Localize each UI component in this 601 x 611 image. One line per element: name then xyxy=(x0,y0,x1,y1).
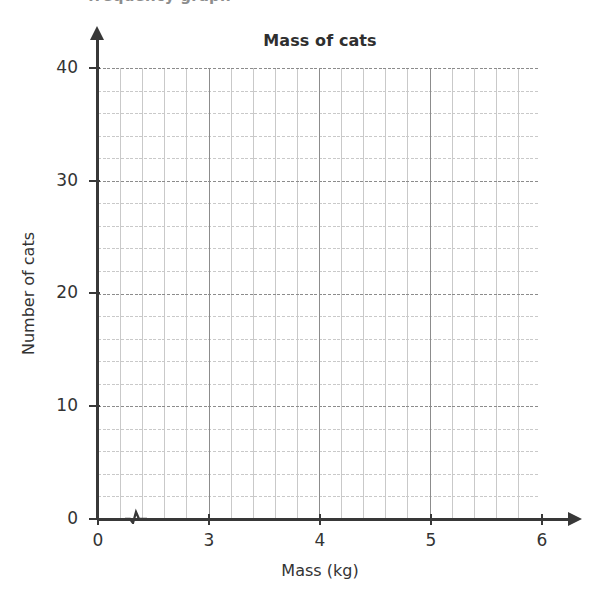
y-axis-tick xyxy=(89,180,100,182)
y-axis-tick-label: 30 xyxy=(18,170,78,190)
x-axis-tick-label: 0 xyxy=(68,530,128,550)
x-axis-tick xyxy=(208,514,210,525)
x-axis-tick xyxy=(541,514,543,525)
y-axis-line xyxy=(96,36,99,520)
x-axis-arrow-icon xyxy=(568,512,582,526)
x-axis-tick-label: 3 xyxy=(179,530,239,550)
axis-break-icon xyxy=(124,500,148,524)
x-axis-title: Mass (kg) xyxy=(190,561,450,580)
y-axis-arrow-icon xyxy=(90,26,104,40)
x-axis-tick xyxy=(430,514,432,525)
y-axis-tick xyxy=(89,67,100,69)
x-axis-line xyxy=(98,518,574,521)
y-axis-tick xyxy=(89,405,100,407)
y-axis-tick xyxy=(89,292,100,294)
x-axis-tick-label: 6 xyxy=(512,530,572,550)
graph-figure: frequency graph Mass of cats 40302010003… xyxy=(0,0,601,611)
chart-title: Mass of cats xyxy=(200,31,440,50)
y-axis-title: Number of cats xyxy=(19,204,38,384)
x-axis-tick xyxy=(319,514,321,525)
plot-area xyxy=(98,68,540,519)
y-axis-tick-label: 0 xyxy=(18,508,78,528)
x-axis-tick-label: 4 xyxy=(290,530,350,550)
y-axis-tick-label: 40 xyxy=(18,57,78,77)
grid-layer xyxy=(98,68,540,519)
y-axis-tick-label: 10 xyxy=(18,395,78,415)
x-axis-tick-label: 5 xyxy=(401,530,461,550)
cropped-header-text: frequency graph xyxy=(88,0,388,5)
x-axis-tick xyxy=(97,514,99,525)
